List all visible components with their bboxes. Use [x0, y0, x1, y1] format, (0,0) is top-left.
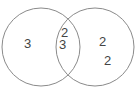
left-circle — [2, 8, 80, 86]
label-right-upper: 2 — [99, 34, 106, 49]
label-intersection-bottom: 3 — [59, 37, 66, 52]
venn-diagram: 3 2 3 2 2 — [0, 0, 140, 91]
right-circle — [56, 8, 134, 86]
label-left-only: 3 — [24, 36, 31, 51]
label-right-lower: 2 — [104, 53, 111, 68]
